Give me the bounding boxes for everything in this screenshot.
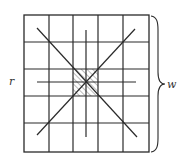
label-w: w: [167, 79, 176, 90]
label-r: r: [9, 76, 14, 87]
radial-lines: [37, 28, 137, 137]
curly-brace: [151, 16, 165, 152]
grid-diagram: [0, 0, 187, 160]
